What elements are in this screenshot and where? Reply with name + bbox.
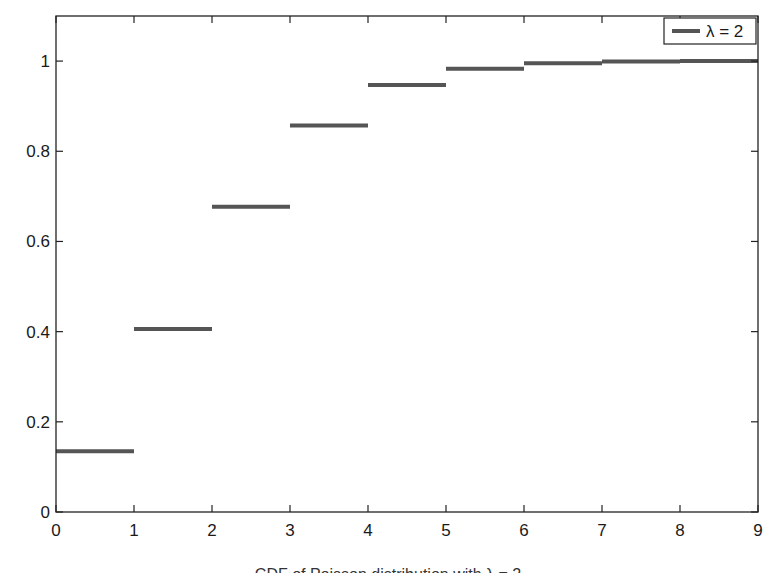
plot-area — [56, 61, 758, 451]
x-tick-label: 4 — [363, 521, 372, 540]
y-tick-label: 0.8 — [26, 142, 50, 161]
y-tick-label: 1 — [41, 52, 50, 71]
y-tick-label: 0 — [41, 503, 50, 522]
figure-caption: CDF of Poisson distribution with λ = 2 — [0, 566, 776, 573]
y-tick-label: 0.2 — [26, 413, 50, 432]
legend: λ = 2 — [664, 18, 756, 44]
legend-label: λ = 2 — [706, 22, 743, 41]
y-tick-label: 0.6 — [26, 232, 50, 251]
y-tick-label: 0.4 — [26, 323, 50, 342]
x-tick-label: 2 — [207, 521, 216, 540]
tick-labels: 012345678900.20.40.60.81 — [26, 52, 762, 540]
x-tick-label: 5 — [441, 521, 450, 540]
chart-canvas: 012345678900.20.40.60.81 λ = 2 — [0, 0, 776, 560]
x-tick-label: 8 — [675, 521, 684, 540]
figure-caption-region: CDF of Poisson distribution with λ = 2 — [0, 560, 776, 573]
x-tick-label: 3 — [285, 521, 294, 540]
x-tick-label: 7 — [597, 521, 606, 540]
x-tick-label: 1 — [129, 521, 138, 540]
axes-frame — [56, 16, 758, 512]
x-tick-label: 6 — [519, 521, 528, 540]
x-tick-label: 0 — [51, 521, 60, 540]
x-tick-label: 9 — [753, 521, 762, 540]
axes — [56, 16, 758, 512]
